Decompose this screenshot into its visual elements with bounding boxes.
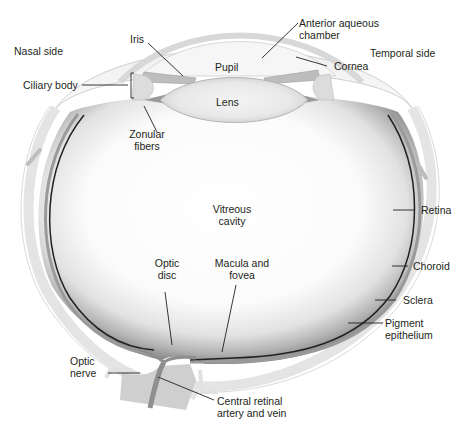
choroid-label: Choroid [413,260,450,272]
central-retinal-label-line1: Central retinal [217,395,286,407]
temporal-side-label: Temporal side [370,47,435,59]
optic-disc-label-line1: Optic [151,257,183,269]
ciliary-body-label: Ciliary body [23,79,78,91]
eye-anatomy-diagram: Nasal side Temporal side Iris Anterior a… [0,0,475,429]
lens-label: Lens [216,96,239,108]
macula-fovea-label: Macula and fovea [212,257,272,281]
anterior-chamber-label-line2: chamber [299,29,379,41]
anterior-chamber-label-line1: Anterior aqueous [299,17,379,29]
optic-disc-label-line2: disc [151,269,183,281]
retina-label: Retina [421,204,451,216]
zonular-fibers-label-line1: Zonular [128,128,166,140]
macula-fovea-label-line1: Macula and [212,257,272,269]
optic-nerve-label-line2: nerve [70,367,96,379]
cornea-label: Cornea [334,60,368,72]
central-retinal-label-line2: artery and vein [217,407,286,419]
pigment-epithelium-label-line2: epithelium [385,329,433,341]
pigment-epithelium-label: Pigment epithelium [385,317,433,341]
anterior-chamber-label: Anterior aqueous chamber [299,17,379,41]
vitreous-cavity-label-line2: cavity [207,215,257,227]
nasal-side-label: Nasal side [14,45,63,57]
pigment-epithelium-label-line1: Pigment [385,317,433,329]
optic-nerve-label: Optic nerve [70,355,96,379]
macula-fovea-label-line2: fovea [212,269,272,281]
vitreous-body [38,94,423,364]
central-retinal-vessels-label: Central retinal artery and vein [217,395,286,419]
sclera-label: Sclera [403,294,433,306]
vitreous-cavity-label: Vitreous cavity [207,203,257,227]
ciliary-body-shape-right [313,74,334,100]
zonular-fibers-label: Zonular fibers [128,128,166,152]
optic-nerve-label-line1: Optic [70,355,96,367]
optic-disc-label: Optic disc [151,257,183,281]
vitreous-cavity-label-line1: Vitreous [207,203,257,215]
pupil-label: Pupil [215,61,238,73]
zonular-fibers-label-line2: fibers [128,140,166,152]
iris-label: Iris [130,33,144,45]
